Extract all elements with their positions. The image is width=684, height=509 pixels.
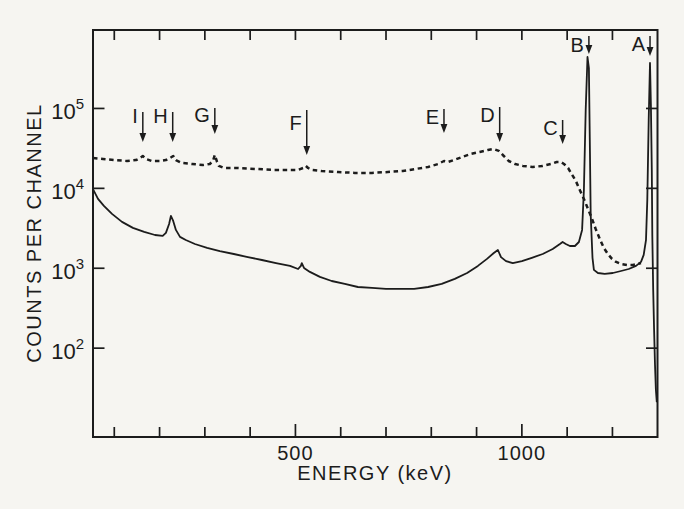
spectrum-figure: 5001000105104103102 IHGFEDCBA ENERGY (ke… [0, 0, 684, 509]
peak-label-C: C [543, 117, 557, 139]
y-axis-title: COUNTS PER CHANNEL [23, 103, 45, 362]
peak-label-F: F [290, 112, 302, 134]
x-tick-label: 1000 [498, 442, 547, 464]
figure-background [0, 0, 684, 509]
x-tick-label: 500 [277, 442, 313, 464]
peak-label-B: B [571, 34, 584, 56]
peak-label-I: I [132, 105, 138, 127]
peak-label-E: E [426, 106, 439, 128]
peak-label-A: A [632, 33, 646, 55]
peak-label-G: G [194, 104, 210, 126]
x-axis-title: ENERGY (keV) [297, 462, 452, 484]
peak-label-D: D [480, 104, 494, 126]
spectrum-chart: 5001000105104103102 IHGFEDCBA ENERGY (ke… [0, 0, 684, 509]
peak-label-H: H [153, 105, 167, 127]
